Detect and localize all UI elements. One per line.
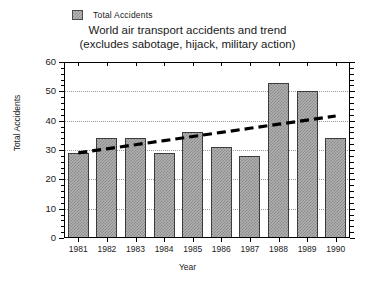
y-tick-minor-right [350,103,354,104]
y-tick-minor-right [350,109,354,110]
y-tick-major-right [350,179,355,180]
y-tick-minor-right [350,115,354,116]
axis-right [349,62,350,238]
x-tick [164,238,165,242]
y-tick-minor-right [350,97,354,98]
y-tick-major-right [350,238,355,239]
y-tick-minor-right [350,127,354,128]
y-tick-major-right [350,209,355,210]
y-tick-minor-right [350,156,354,157]
x-tick-label: 1989 [298,245,317,254]
x-tick [336,238,337,242]
chart-title: World air transport accidents and trend … [0,24,375,51]
legend-label-total-accidents: Total Accidents [93,10,153,20]
x-tick-label: 1983 [126,245,145,254]
y-tick-minor-right [350,85,354,86]
x-tick [78,238,79,242]
axis-bottom [64,237,350,238]
y-tick-minor-right [350,68,354,69]
y-tick-minor-right [350,220,354,221]
y-tick-minor-right [350,74,354,75]
y-tick-minor-right [350,173,354,174]
x-tick-label: 1984 [155,245,174,254]
x-tick [193,238,194,242]
chart-title-line-2: (excludes sabotage, hijack, military act… [0,38,375,52]
chart-title-line-1: World air transport accidents and trend [0,24,375,38]
y-tick-label: 0 [51,233,56,243]
y-tick-major-right [350,150,355,151]
x-tick [307,238,308,242]
plot-area: 0102030405060198119821983198419851986198… [64,62,350,238]
y-tick-label: 50 [45,87,56,97]
trend-line-path [78,116,335,153]
y-tick-minor-right [350,132,354,133]
y-tick-major-right [350,121,355,122]
legend-swatch-icon [72,10,83,20]
y-tick-major [59,238,64,239]
axis-top [64,62,350,63]
chart-legend: Total Accidents [72,10,153,20]
y-tick-label: 10 [45,204,56,214]
x-tick-label: 1986 [212,245,231,254]
x-axis-title: Year [0,262,375,272]
y-tick-minor-right [350,191,354,192]
x-tick [221,238,222,242]
y-tick-major-right [350,91,355,92]
y-tick-minor-right [350,162,354,163]
y-tick-minor-right [350,138,354,139]
y-tick-minor-right [350,144,354,145]
x-tick [279,238,280,242]
y-tick-label: 40 [45,116,56,126]
trend-line [64,62,350,238]
y-tick-minor-right [350,226,354,227]
x-tick [250,238,251,242]
y-axis-title: Total Accidents [12,78,22,168]
y-tick-minor-right [350,232,354,233]
x-tick [107,238,108,242]
y-tick-minor-right [350,168,354,169]
x-tick-label: 1985 [183,245,202,254]
y-tick-minor-right [350,80,354,81]
chart-figure: Total Accidents World air transport acci… [0,0,375,284]
y-tick-minor-right [350,215,354,216]
y-tick-label: 20 [45,175,56,185]
y-tick-minor-right [350,203,354,204]
y-tick-minor-right [350,185,354,186]
x-tick-label: 1982 [97,245,116,254]
y-tick-minor-right [350,197,354,198]
y-tick-major-right [350,62,355,63]
x-tick-label: 1987 [240,245,259,254]
axis-left [64,62,65,238]
y-tick-label: 30 [45,145,56,155]
x-tick-label: 1981 [69,245,88,254]
y-tick-label: 60 [45,57,56,67]
x-tick-label: 1990 [326,245,345,254]
x-tick [136,238,137,242]
x-tick-label: 1988 [269,245,288,254]
